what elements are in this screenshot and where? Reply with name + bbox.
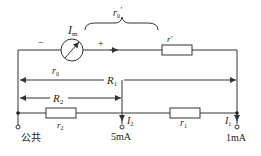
r1-label: r1 (180, 117, 187, 129)
junction-dot-right (235, 111, 239, 115)
r0-prime-label: r0' (113, 6, 122, 19)
R1-label: R1 (106, 74, 118, 88)
meter-minus-sign: − (38, 37, 44, 48)
terminal-common[interactable] (16, 125, 20, 129)
meter-plus-sign: + (98, 38, 104, 49)
circuit-diagram: − + Im r0' r' r0 R1 R2 r2 r1 I2 I1 公共 5m… (0, 0, 261, 156)
resistor-r-prime (162, 45, 192, 55)
galvanometer-needle (65, 42, 79, 58)
terminal-5mA[interactable] (120, 125, 124, 129)
I1-label: I1 (224, 115, 231, 127)
terminal-5mA-label: 5mA (111, 131, 132, 142)
meter-label: Im (67, 23, 78, 38)
r-prime-label: r' (167, 34, 174, 44)
R2-label: R2 (52, 92, 64, 106)
resistor-r1 (170, 108, 200, 118)
r2-label: r2 (57, 120, 64, 131)
r0-label: r0 (52, 65, 59, 77)
top-wire-right (192, 50, 237, 113)
resistor-r2 (46, 108, 76, 118)
junction-dot-left (16, 111, 20, 115)
terminal-1mA-label: 1mA (226, 132, 247, 143)
terminal-common-label: 公共 (21, 132, 41, 143)
brace-r0-prime (85, 17, 158, 30)
terminal-1mA[interactable] (235, 125, 239, 129)
I2-label: I2 (126, 115, 133, 127)
